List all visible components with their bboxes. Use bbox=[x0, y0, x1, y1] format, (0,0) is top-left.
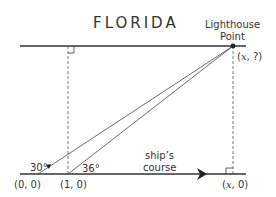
sight-line-30 bbox=[38, 46, 233, 174]
right-angle-mark-bottom bbox=[226, 168, 233, 174]
lighthouse-label-line2: Point bbox=[220, 31, 245, 42]
angle-30-label: 30° bbox=[30, 162, 48, 173]
ships-course-label-line1: ship’s bbox=[145, 150, 174, 161]
right-angle-mark-top bbox=[68, 46, 74, 53]
ships-course-label-line2: course bbox=[143, 162, 176, 173]
angle-36-label: 36° bbox=[82, 163, 100, 174]
lighthouse-point-dot bbox=[231, 44, 236, 49]
origin-label: (0, 0) bbox=[14, 179, 41, 190]
point-x-label: (x, 0) bbox=[222, 179, 248, 190]
point-1-label: (1, 0) bbox=[60, 179, 87, 190]
diagram: FLORIDA Lighthouse Point (x, ?) 30° 36° … bbox=[0, 0, 276, 197]
florida-label: FLORIDA bbox=[93, 14, 179, 32]
lighthouse-label-line1: Lighthouse bbox=[205, 19, 260, 30]
lighthouse-coord: (x, ?) bbox=[237, 51, 262, 62]
